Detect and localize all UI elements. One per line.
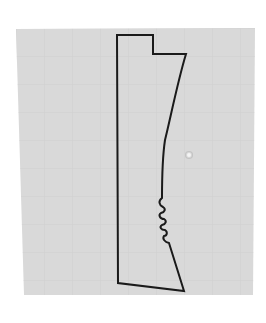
diagram-canvas [0, 0, 266, 323]
grid-lines [0, 0, 266, 323]
